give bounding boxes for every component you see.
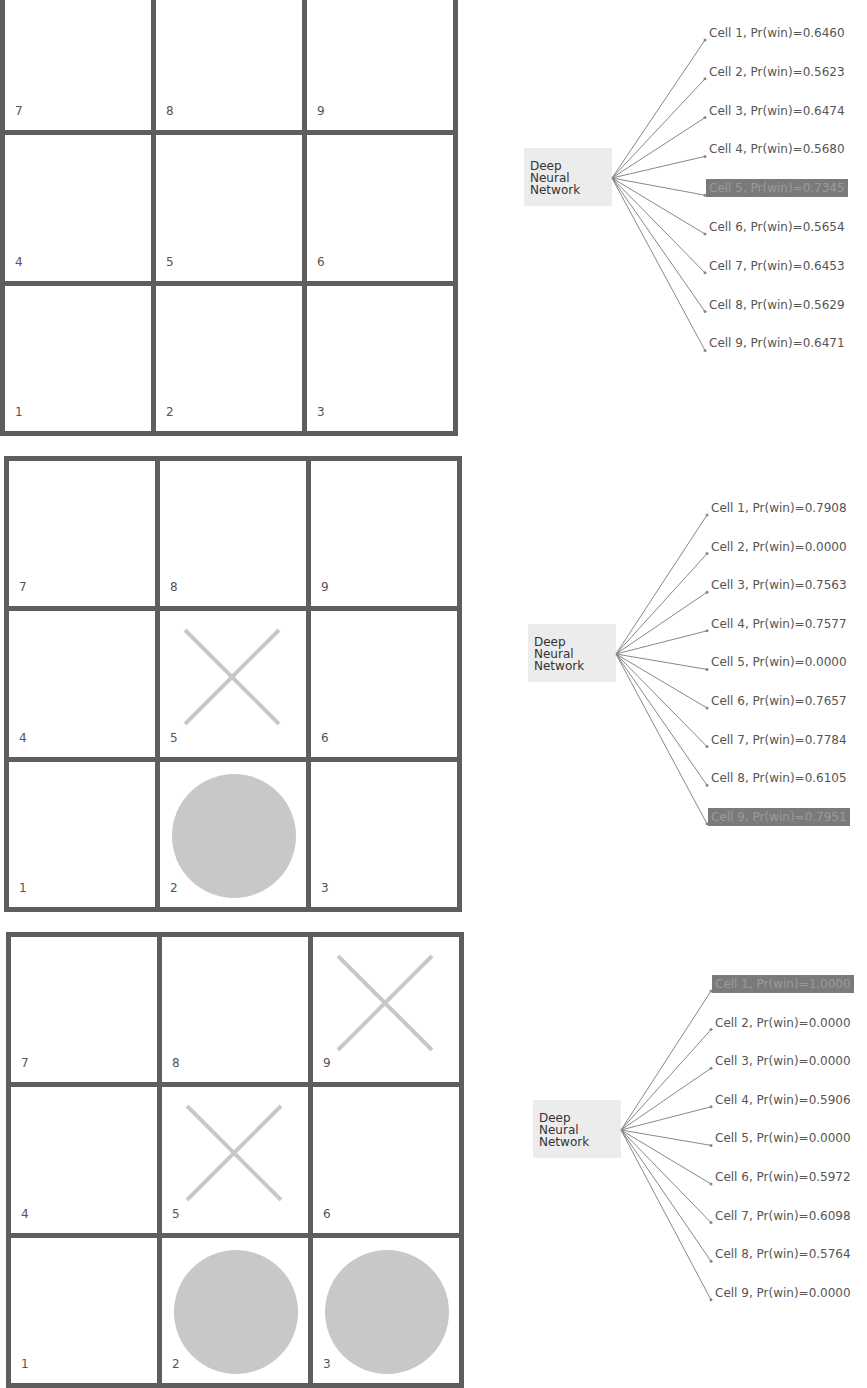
move-probability-label: Cell 5, Pr(win)=0.0000 xyxy=(712,1129,854,1147)
move-probability-label: Cell 9, Pr(win)=0.0000 xyxy=(712,1284,854,1302)
move-probability-label: Cell 3, Pr(win)=0.0000 xyxy=(712,1052,854,1070)
best-move-label: Cell 1, Pr(win)=1.0000 xyxy=(712,975,854,993)
move-probability-label: Cell 7, Pr(win)=0.6098 xyxy=(712,1207,854,1225)
move-probability-label: Cell 4, Pr(win)=0.5906 xyxy=(712,1091,854,1109)
move-probability-label: Cell 8, Pr(win)=0.5764 xyxy=(712,1245,854,1263)
move-probability-label: Cell 2, Pr(win)=0.0000 xyxy=(712,1014,854,1032)
move-probability-label: Cell 6, Pr(win)=0.5972 xyxy=(712,1168,854,1186)
